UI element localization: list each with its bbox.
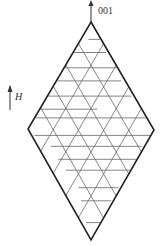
grid-line	[53, 65, 116, 173]
grid-line	[41, 108, 104, 218]
grid-line	[78, 108, 141, 217]
axis-001-label: 001	[98, 5, 113, 16]
field-h-label: H	[14, 91, 23, 102]
grid-lines	[41, 43, 142, 218]
field-h-arrow	[8, 85, 13, 110]
grid-line	[66, 87, 129, 196]
rhombus-diagram: 001 H	[0, 0, 160, 246]
grid-line	[53, 86, 116, 196]
rhombus-outline	[28, 22, 154, 240]
axis-001-arrow	[89, 0, 94, 24]
